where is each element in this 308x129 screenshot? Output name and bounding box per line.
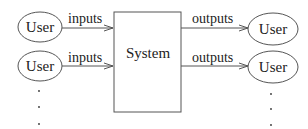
- input-ellipsis-dots: [38, 90, 40, 125]
- user-label: User: [26, 19, 54, 35]
- output-arrow-1: outputs: [181, 11, 248, 28]
- output-ellipsis-dots: [270, 93, 272, 126]
- outputs-label: outputs: [192, 50, 233, 65]
- user-label: User: [26, 58, 54, 74]
- input-user-1: User: [18, 12, 62, 42]
- system-box: System: [114, 12, 181, 112]
- input-user-2: User: [18, 51, 62, 81]
- output-arrow-2: outputs: [181, 50, 248, 66]
- system-io-diagram: User User inputs inputs System outputs o…: [0, 0, 308, 129]
- input-arrow-1: inputs: [62, 11, 113, 28]
- inputs-label: inputs: [68, 11, 102, 26]
- user-label: User: [259, 59, 287, 75]
- input-arrow-2: inputs: [62, 50, 113, 66]
- outputs-label: outputs: [192, 11, 233, 26]
- output-user-1: User: [248, 13, 298, 45]
- system-label: System: [126, 45, 171, 61]
- user-label: User: [259, 21, 287, 37]
- output-user-2: User: [248, 51, 298, 83]
- inputs-label: inputs: [68, 50, 102, 65]
